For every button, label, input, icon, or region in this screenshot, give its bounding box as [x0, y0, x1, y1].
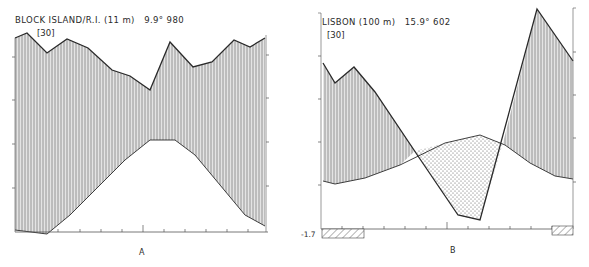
chart-a-panel-label: A [139, 248, 144, 257]
frost-bar-winter-end [552, 226, 573, 235]
climate-chart-b: LISBON (100 m) 15.9° 602 [30] -1.7 B [295, 0, 589, 267]
chart-b-panel-label: B [450, 246, 456, 255]
humid-area [15, 33, 265, 234]
chart-b-plot [295, 0, 589, 267]
chart-a-plot [0, 0, 295, 267]
frost-bar-winter-start [322, 229, 364, 238]
chart-a-years: [30] [37, 28, 54, 38]
climate-chart-a: BLOCK ISLAND/R.I. (11 m) 9.9° 980 [30] A [0, 0, 295, 267]
chart-a-title: BLOCK ISLAND/R.I. (11 m) 9.9° 980 [15, 15, 184, 25]
chart-b-years: [30] [327, 30, 344, 40]
chart-b-title: LISBON (100 m) 15.9° 602 [322, 17, 451, 27]
chart-b-min-temp-label: -1.7 [301, 230, 316, 239]
arid-area [415, 135, 503, 220]
